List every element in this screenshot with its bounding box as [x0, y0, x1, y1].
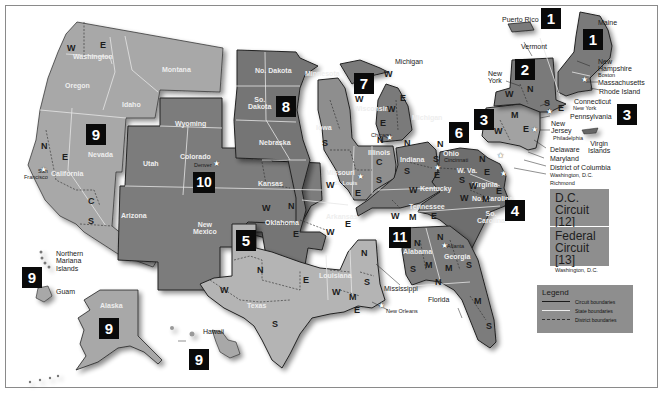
- district-mi-w: W: [387, 104, 396, 114]
- district-tx-w: W: [220, 285, 229, 295]
- district-tn-w: W: [391, 211, 400, 221]
- new-jersey-line2: Jersey: [551, 127, 572, 134]
- state-label-california: California: [51, 170, 83, 177]
- district-ny-e: E: [558, 103, 564, 113]
- district-ky-w: W: [409, 185, 418, 195]
- district-ky-e: E: [434, 170, 440, 180]
- dc-circuit-box: D.C. Circuit [12] Washington, D.C.: [550, 189, 609, 226]
- state-label-vermont: Vermont: [521, 43, 547, 50]
- state-label-tennessee: Tennessee: [409, 203, 445, 210]
- district-wa-e: E: [100, 40, 106, 50]
- district-ok-e: E: [293, 229, 299, 239]
- district-va-e: E: [484, 167, 490, 177]
- city-label-st-louis: St. Louis: [334, 181, 357, 187]
- district-ca-c: C: [88, 196, 95, 206]
- district-oh-s: S: [433, 154, 439, 164]
- district-tn-m: M: [409, 212, 417, 222]
- state-label-south-carolina: So.Carolina: [477, 210, 505, 225]
- district-pa-w: W: [494, 126, 503, 136]
- state-label-minnesota: Minnesota: [305, 70, 340, 77]
- northern-mariana-line2: Mariana: [56, 257, 81, 264]
- city-label-new-york: New York: [573, 106, 596, 112]
- district-ok-n: N: [288, 201, 295, 211]
- federal-circuit-location: Washington, D.C.: [555, 267, 604, 273]
- district-ia-s: S: [322, 138, 328, 148]
- district-oh-n: N: [437, 139, 444, 149]
- state-label-nebraska: Nebraska: [259, 139, 291, 146]
- state-label-iowa: Iowa: [316, 124, 332, 131]
- district-mo-e: E: [355, 188, 361, 198]
- state-label-alaska: Alaska: [100, 302, 123, 309]
- state-label-arkansas: Arkansas: [326, 213, 358, 220]
- state-label-new-mexico: NewMexico: [193, 221, 217, 236]
- district-wi-w: W: [355, 94, 364, 104]
- territory-label-virgin-islands: VirginIslands: [588, 140, 610, 155]
- san-francisco-line2: Francisco: [24, 174, 48, 180]
- district-ok-w: W: [262, 203, 271, 213]
- circuit-badge-9-mariana: 9: [22, 267, 42, 288]
- star-icon-new-york: ★: [546, 108, 553, 116]
- state-label-indiana: Indiana: [400, 156, 425, 163]
- circuit-badge-1-maine: 1: [583, 29, 603, 50]
- district-fl-m: M: [474, 296, 482, 306]
- city-label-richmond: Richmond: [550, 181, 575, 187]
- state-label-utah: Utah: [143, 160, 159, 167]
- state-label-south-carolina-line1: So.: [486, 210, 497, 217]
- state-label-dc: District of Columbia: [550, 164, 611, 171]
- district-ga-m: M: [445, 263, 453, 273]
- star-icon-san-francisco: ★: [40, 166, 47, 174]
- district-ca-n: N: [41, 141, 48, 151]
- legend-title: Legend: [542, 288, 628, 297]
- legend-swatch-circuit: [542, 301, 570, 302]
- circuit-badge-9-nevada: 9: [86, 124, 106, 145]
- district-al-n: N: [414, 238, 421, 248]
- district-ca-e: E: [62, 152, 68, 162]
- city-label-cincinnati: Cincinnati: [444, 158, 468, 164]
- new-york-line2: York: [488, 77, 502, 84]
- district-ar-e: E: [345, 219, 351, 229]
- star-icon-chicago: ★: [386, 134, 393, 142]
- district-fl-n: N: [435, 277, 442, 287]
- state-label-wyoming: Wyoming: [175, 120, 206, 127]
- district-ms-n: N: [361, 248, 368, 258]
- state-label-north-dakota: No. Dakota: [255, 67, 292, 74]
- district-pa-e: E: [523, 124, 529, 134]
- district-nc-w: W: [460, 193, 469, 203]
- city-label-new-orleans: New Orleans: [386, 309, 418, 315]
- state-label-michigan-up: Michigan: [395, 58, 423, 65]
- state-label-west-virginia: W. Va.: [457, 167, 477, 174]
- state-label-maryland: Maryland: [550, 155, 579, 162]
- district-wi-e: E: [380, 118, 386, 128]
- district-nc-e: E: [496, 186, 502, 196]
- state-label-hawaii: Hawaii: [203, 328, 224, 335]
- state-label-florida: Florida: [428, 296, 449, 303]
- city-label-atlanta: Atlanta: [447, 244, 464, 250]
- virgin-islands-line1: Virgin: [590, 140, 608, 147]
- district-il-s: S: [376, 175, 382, 185]
- state-label-oklahoma: Oklahoma: [265, 219, 299, 226]
- state-label-louisiana: Louisiana: [319, 272, 352, 279]
- territory-label-guam: Guam: [56, 288, 75, 295]
- star-icon-atlanta: ★: [441, 242, 448, 250]
- state-label-wisconsin: Wisconsin: [354, 105, 389, 112]
- district-ny-n: N: [527, 84, 534, 94]
- state-label-kentucky: Kentucky: [420, 185, 452, 192]
- district-al-m: M: [425, 260, 433, 270]
- state-label-montana: Montana: [162, 66, 191, 73]
- district-ga-s: S: [466, 260, 472, 270]
- district-fl-s: S: [486, 321, 492, 331]
- northern-mariana-line1: Northern: [56, 250, 83, 257]
- state-label-maine: Maine: [598, 19, 617, 26]
- legend-label-district: District boundaries: [575, 317, 616, 323]
- city-label-washington-dc: Washington, D.C.: [550, 173, 593, 179]
- district-il-c: C: [376, 157, 383, 167]
- federal-circuit-title-line2: Circuit [13]: [555, 242, 604, 266]
- state-label-south-dakota-line2: Dakota: [248, 103, 271, 110]
- district-ny-w: W: [505, 89, 514, 99]
- star-icon-richmond: ★: [500, 170, 507, 178]
- virgin-islands-line2: Islands: [588, 147, 610, 154]
- district-tx-n: N: [257, 265, 264, 275]
- star-icon-new-orleans: ★: [378, 302, 385, 310]
- district-pa-m: M: [511, 110, 519, 120]
- city-label-boston: Boston: [598, 73, 615, 79]
